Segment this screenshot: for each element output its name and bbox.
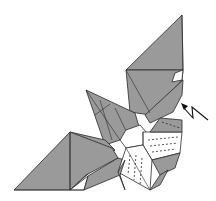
origami-diagram	[0, 0, 216, 201]
upper-flap	[126, 15, 183, 123]
open-sink-arrow-icon	[181, 103, 208, 120]
